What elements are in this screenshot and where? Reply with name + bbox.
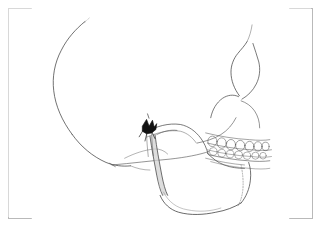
figure-root: Lateral cephalometric skull tracing huma… [0, 0, 322, 228]
skull-tracing-illustration [8, 8, 313, 219]
